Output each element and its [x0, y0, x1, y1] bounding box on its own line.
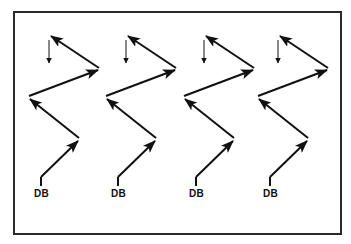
arrow-segment-3	[258, 70, 327, 96]
zigzag-pattern-4	[258, 36, 328, 186]
db-label: DB	[34, 189, 49, 199]
zigzag-pattern-2	[106, 36, 176, 186]
arrow-segment-3	[106, 70, 175, 96]
arrow-segment-1	[196, 141, 233, 177]
db-label: DB	[111, 189, 126, 199]
arrow-segment-2	[30, 99, 79, 138]
arrow-segment-3	[29, 70, 98, 96]
db-label: DB	[189, 189, 204, 199]
zigzag-pattern-1	[29, 36, 99, 186]
arrow-segment-1	[270, 141, 307, 177]
arrow-segment-4	[128, 36, 176, 68]
db-label: DB	[263, 189, 278, 199]
arrow-segment-2	[259, 99, 308, 138]
arrow-segment-1	[118, 141, 155, 177]
arrow-segment-4	[206, 36, 254, 68]
zigzag-pattern-3	[184, 36, 254, 186]
arrow-segment-4	[51, 36, 99, 68]
zigzag-arrows-diagram	[0, 0, 351, 244]
arrow-segment-3	[184, 70, 253, 96]
arrow-segment-4	[280, 36, 328, 68]
arrow-segment-2	[185, 99, 234, 138]
arrow-segment-2	[107, 99, 156, 138]
arrow-segment-1	[41, 141, 78, 177]
